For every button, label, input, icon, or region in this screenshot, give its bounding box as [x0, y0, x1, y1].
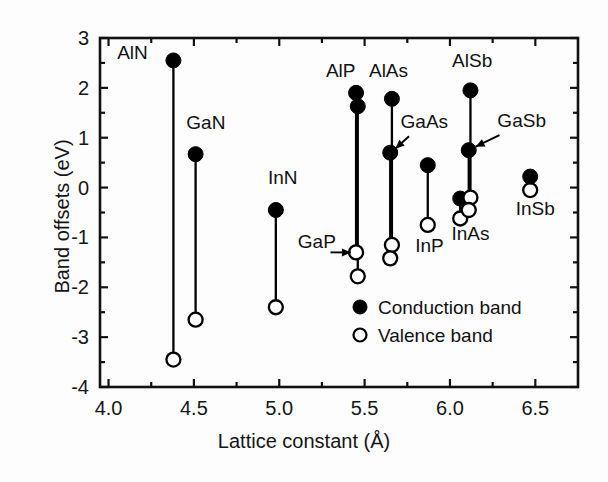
y-tick-label: 1	[78, 127, 89, 149]
conduction-band-marker	[463, 83, 478, 98]
y-tick-label: -1	[71, 226, 89, 248]
x-axis-title: Lattice constant (Å)	[0, 430, 608, 453]
axis-ticks	[100, 38, 578, 387]
x-tick-label: 6.0	[436, 397, 464, 419]
material-label-alp: AlP	[326, 60, 356, 81]
x-tick-label: 5.0	[265, 397, 293, 419]
y-tick-label: 2	[78, 77, 89, 99]
y-tick-label: -2	[71, 276, 89, 298]
legend-label-conduction-band: Conduction band	[378, 297, 522, 318]
material-labels: AlNGaNInNAlPAlAsInPInAsAlSbInSb	[117, 42, 555, 256]
material-label-gan: GaN	[186, 112, 225, 133]
y-tick-label: 0	[78, 177, 89, 199]
legend-marker-valence	[354, 329, 367, 342]
conduction-band-marker	[420, 158, 435, 173]
band-offset-markers	[166, 53, 538, 367]
plot-frame	[100, 38, 578, 387]
material-label-gaas: GaAs	[401, 111, 449, 132]
conduction-band-marker	[268, 203, 283, 218]
y-tick-label: -4	[71, 376, 89, 398]
valence-band-marker	[385, 238, 399, 252]
material-label-alas: AlAs	[369, 60, 408, 81]
legend-marker-conduction	[353, 300, 367, 314]
material-label-inn: InN	[268, 167, 298, 188]
conduction-band-marker	[350, 99, 365, 114]
valence-band-marker	[349, 245, 363, 259]
y-tick-label: 3	[78, 27, 89, 49]
valence-band-marker	[166, 353, 180, 367]
conduction-band-marker	[523, 169, 538, 184]
chart-legend: Conduction bandValence band	[353, 297, 522, 346]
valence-band-marker	[462, 203, 476, 217]
conduction-band-marker	[166, 53, 181, 68]
material-label-gasb: GaSb	[497, 110, 546, 131]
material-label-insb: InSb	[516, 198, 555, 219]
material-label-inas: InAs	[451, 223, 489, 244]
legend-label-valence-band: Valence band	[378, 325, 493, 346]
conduction-band-marker	[349, 85, 364, 100]
material-label-aln: AlN	[117, 42, 148, 63]
material-label-alsb: AlSb	[452, 50, 492, 71]
x-tick-label: 5.5	[351, 397, 379, 419]
y-tick-label: -3	[71, 326, 89, 348]
valence-band-marker	[421, 218, 435, 232]
conduction-band-marker	[188, 147, 203, 162]
band-offset-plot: 4.04.55.05.56.06.5-4-3-2-10123 GaAsGaSbG…	[0, 0, 608, 482]
valence-band-marker	[351, 269, 365, 283]
conduction-band-marker	[384, 91, 399, 106]
valence-band-marker	[383, 251, 397, 265]
valence-band-marker	[523, 183, 537, 197]
conduction-band-marker	[461, 143, 476, 158]
valence-band-marker	[189, 313, 203, 327]
material-label-inp: InP	[415, 235, 444, 256]
x-tick-label: 4.0	[95, 397, 123, 419]
band-offset-chart-figure: { "chart_data": { "type": "scatter", "ti…	[0, 0, 608, 482]
material-label-gap: GaP	[298, 231, 336, 252]
y-axis-title: Band offsets (eV)	[51, 42, 74, 392]
x-tick-label: 6.5	[521, 397, 549, 419]
x-tick-label: 4.5	[180, 397, 208, 419]
valence-band-marker	[269, 300, 283, 314]
